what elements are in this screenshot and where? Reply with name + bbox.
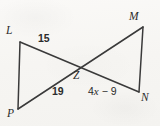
vertex-label-L: L bbox=[6, 25, 12, 37]
measure-label-PZ: 19 bbox=[52, 86, 64, 97]
segment-LP bbox=[18, 42, 20, 109]
expr-constant: 9 bbox=[111, 85, 117, 97]
geometry-figure: L M N P Z 15 19 4x − 9 bbox=[0, 0, 160, 126]
segment-MN bbox=[139, 27, 143, 92]
segment-PM bbox=[18, 27, 143, 109]
vertex-label-M: M bbox=[129, 11, 139, 23]
measure-label-ZN: 4x − 9 bbox=[88, 86, 117, 97]
vertex-label-P: P bbox=[7, 108, 14, 120]
vertex-label-Z: Z bbox=[73, 70, 79, 82]
vertex-label-N: N bbox=[141, 92, 149, 104]
measure-label-LZ: 15 bbox=[38, 33, 50, 44]
segment-LN bbox=[20, 42, 139, 92]
